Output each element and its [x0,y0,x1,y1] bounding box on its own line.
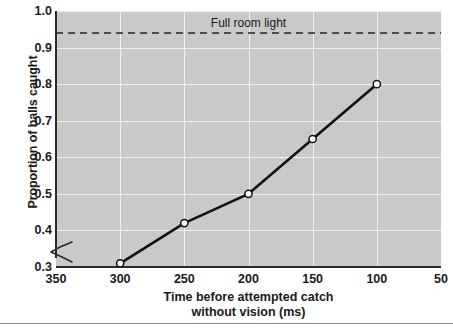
figure: Proportion of balls caught 0.30.40.50.60… [0,0,453,332]
x-axis-title-line2: without vision (ms) [56,305,441,320]
x-axis-tick-label: 150 [288,272,338,286]
y-axis-tick-labels: 0.30.40.50.60.70.80.91.0 [22,0,52,270]
x-axis-title: Time before attempted catch without visi… [56,290,441,320]
data-point-marker [373,81,380,88]
data-point-marker [245,190,252,197]
data-point-marker [117,260,124,267]
data-point-marker [309,135,316,142]
x-axis-tick-label: 50 [416,272,453,286]
data-layer [56,11,441,267]
x-axis-tick-label: 350 [31,272,81,286]
y-axis-tick-label: 0.8 [22,77,52,91]
x-axis-title-line1: Time before attempted catch [56,290,441,305]
series-line [120,84,377,263]
y-axis-tick-label: 0.5 [22,187,52,201]
x-axis-tick-labels: 35030025020015010050 [56,272,441,292]
y-axis-tick-label: 0.7 [22,114,52,128]
x-axis-tick-label: 100 [352,272,402,286]
annotation-full-room-light: Full room light [211,16,286,30]
data-point-marker [181,220,188,227]
x-axis-tick-label: 250 [159,272,209,286]
y-axis-tick-label: 1.0 [22,4,52,18]
x-axis-tick-label: 300 [95,272,145,286]
x-axis-tick-label: 200 [224,272,274,286]
bottom-divider [0,323,453,324]
y-axis-tick-label: 0.4 [22,223,52,237]
y-axis-tick-label: 0.9 [22,41,52,55]
y-axis-tick-label: 0.6 [22,150,52,164]
